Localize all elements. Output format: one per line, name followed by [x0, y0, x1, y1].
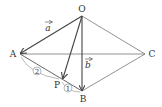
edge-cb	[82, 54, 145, 91]
point-label-a: A	[9, 49, 17, 59]
point-label-c: C	[149, 49, 156, 59]
edge-ab	[20, 54, 82, 91]
vector-diagram: 2 1 O A C B P a b	[0, 0, 162, 107]
point-label-p: P	[54, 80, 60, 90]
point-label-o: O	[78, 4, 85, 14]
point-label-b: B	[80, 94, 87, 104]
ratio-label-pb: 1	[66, 85, 70, 93]
edge-oc	[82, 16, 145, 54]
vector-label-a: a	[45, 23, 50, 33]
vector-label-b: b	[85, 60, 91, 70]
ratio-label-ap: 2	[35, 68, 39, 76]
